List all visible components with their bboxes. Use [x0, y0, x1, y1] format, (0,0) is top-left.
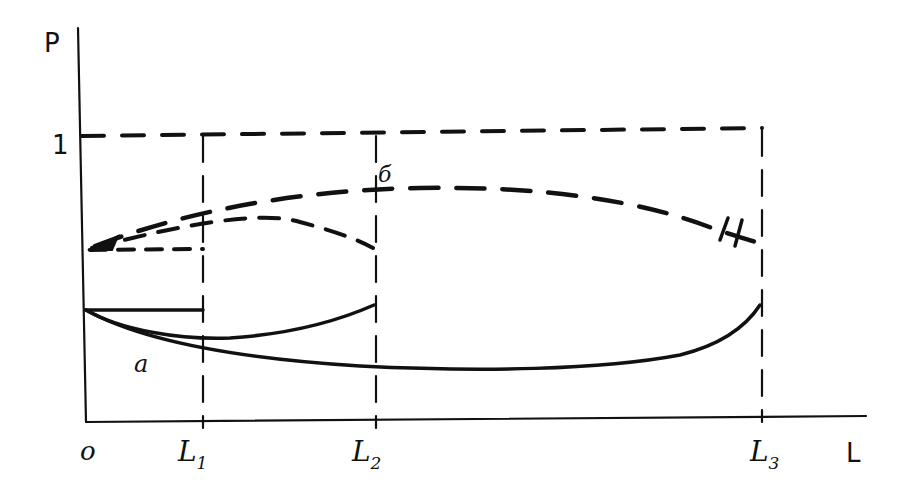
diagram-canvas: P 1 o L L1 L2 L3 a б — [0, 0, 908, 497]
arrowhead — [88, 236, 118, 250]
dashed-curve-l2 — [92, 218, 373, 248]
x-tick-l3: L3 — [750, 438, 779, 466]
origin-label: o — [80, 438, 96, 464]
x-axis-label: L — [846, 440, 861, 466]
x-tick-l1-main: L — [178, 435, 197, 468]
x-tick-l2-main: L — [352, 435, 371, 468]
x-tick-l1: L1 — [178, 438, 207, 466]
curve-label-a: a — [134, 352, 148, 376]
curve-label-b: б — [378, 164, 391, 186]
x-tick-l3-main: L — [750, 435, 769, 468]
x-tick-l3-sub: 3 — [769, 453, 780, 473]
x-tick-l2-sub: 2 — [371, 453, 382, 473]
dashed-curve-l3 — [95, 188, 762, 246]
x-tick-l1-sub: 1 — [197, 453, 208, 473]
p-one-line — [82, 128, 762, 136]
y-axis-label: P — [44, 30, 60, 56]
x-tick-l2: L2 — [352, 438, 381, 466]
y-tick-one-label: 1 — [52, 132, 69, 158]
y-axis — [78, 28, 86, 422]
break-mark-2 — [735, 220, 742, 246]
diagram-svg — [0, 0, 908, 497]
break-mark-1 — [720, 218, 728, 240]
